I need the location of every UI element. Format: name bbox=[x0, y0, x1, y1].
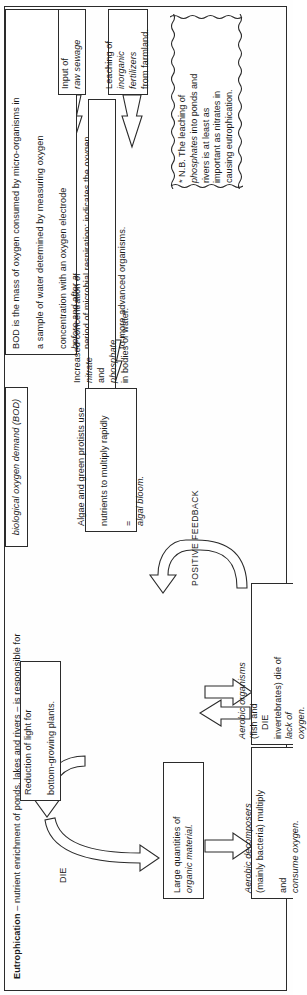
die-label-bloom: DIE bbox=[260, 715, 271, 730]
aerobic-organisms-die-box: Aerobic organisms (fish and invertebrate… bbox=[251, 583, 293, 745]
aerobic-org-line-2-italic: lack of bbox=[284, 712, 293, 739]
note-line-2-italic: phosphates bbox=[189, 136, 199, 183]
leaching-text-2: from farmland. bbox=[140, 15, 152, 89]
decomposers-italic-1: Aerobic decomposers bbox=[243, 803, 253, 893]
bod-def-line-2: a sample of water determined by measurin… bbox=[35, 15, 47, 349]
inc-conc-mid: and bbox=[96, 105, 108, 383]
reduction-line-2: bottom-growing plants. bbox=[46, 667, 58, 795]
bod-term-box: biological oxygen demand (BOD) bbox=[5, 387, 28, 547]
decomposers-line-3-italic: consume oxygen. bbox=[290, 820, 293, 893]
inc-conc-end: in bodies of water. bbox=[120, 105, 132, 383]
note-line-4: important as nitrates in bbox=[212, 91, 222, 183]
light-reduction-box: Reduction of light for bottom-growing pl… bbox=[20, 661, 61, 801]
leaching-fertilizers-box: Leaching of inorganic fertilizers from f… bbox=[108, 9, 148, 95]
raw-sewage-box: Input of raw sewage bbox=[58, 9, 86, 95]
title-term: Eutrophication bbox=[12, 913, 22, 979]
increased-concentration-box: Increased concentration of nitrate and p… bbox=[88, 99, 116, 389]
bod-def-line-1: BOD is the mass of oxygen consumed by mi… bbox=[11, 15, 23, 349]
bod-term-label: biological oxygen demand (BOD) bbox=[11, 399, 21, 535]
diagram-page: Eutrophication – nutrient enrichment of … bbox=[0, 0, 293, 995]
algal-line-3-italic: algal bloom. bbox=[135, 476, 145, 526]
aerobic-decomposers-box: Aerobic decomposers (mainly bacteria) mu… bbox=[251, 747, 293, 899]
algal-line-3: = bbox=[123, 394, 135, 526]
decomposers-line-3: and bbox=[278, 753, 290, 893]
raw-sewage-italic: raw sewage bbox=[72, 39, 82, 89]
inc-conc-italic-1: nitrate bbox=[84, 357, 94, 383]
raw-sewage-text: Input of bbox=[60, 15, 72, 89]
die-label-2-text: DIE bbox=[58, 868, 68, 883]
die-label-light: DIE bbox=[58, 868, 69, 883]
reduction-line-1: Reduction of light for bbox=[23, 667, 35, 795]
algal-bloom-box: Algae and green protists use nutrients t… bbox=[85, 388, 137, 532]
die-label-1-text: DIE bbox=[260, 715, 270, 730]
note-line-2: into ponds and bbox=[189, 74, 199, 136]
organic-material-box: Large quantities of organic material. bbox=[163, 762, 204, 899]
note-line-5: causing eutrophication. bbox=[224, 89, 234, 183]
algal-line-1: Algae and green protists use bbox=[76, 394, 88, 526]
leaching-italic-1: inorganic bbox=[116, 51, 126, 89]
organic-italic: organic material. bbox=[184, 824, 194, 893]
decomposers-line-2: (mainly bacteria) multiply bbox=[255, 753, 267, 893]
inc-conc-text-1: Increased concentration of bbox=[72, 105, 84, 383]
organic-text: Large quantities of bbox=[172, 768, 184, 893]
note-line-3: rivers is at least as bbox=[201, 108, 211, 183]
inc-conc-italic-2: phosphate bbox=[108, 340, 118, 383]
algal-line-2: nutrients to multiply rapidly bbox=[99, 394, 111, 526]
positive-feedback-text: POSITIVE FEEDBACK bbox=[190, 490, 200, 586]
note-line-1: * N.B. The leaching of bbox=[177, 95, 187, 183]
leaching-italic-2: fertilizers bbox=[128, 52, 138, 89]
leaching-text-1: Leaching of bbox=[104, 15, 116, 89]
arrow-light-reduction-to-organic-material bbox=[45, 818, 159, 871]
aerobic-org-line-2: invertebrates) die of bbox=[273, 589, 285, 739]
aerobic-org-text-1: (fish and bbox=[249, 589, 261, 739]
aerobic-org-italic-1: Aerobic organisms bbox=[237, 662, 247, 739]
positive-feedback-label: POSITIVE FEEDBACK bbox=[190, 490, 201, 586]
nb-note-box: * N.B. The leaching of phosphates into p… bbox=[170, 14, 243, 189]
